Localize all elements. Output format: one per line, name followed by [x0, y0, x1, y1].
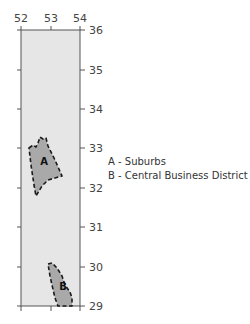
- y-tick-label: 29: [89, 300, 103, 313]
- y-tick-label: 31: [89, 221, 103, 234]
- y-tick-label: 34: [89, 103, 103, 116]
- legend: A - Suburbs B - Central Business Distric…: [108, 155, 248, 183]
- x-tick-label: 52: [14, 12, 28, 25]
- region-label-b: B: [59, 281, 67, 292]
- y-tick-label: 30: [89, 261, 103, 274]
- y-tick-label: 33: [89, 142, 103, 155]
- map-area: 5253543635343332313029AB: [14, 12, 103, 313]
- y-tick-label: 35: [89, 64, 103, 77]
- region-label-a: A: [40, 156, 48, 167]
- x-tick-label: 54: [73, 12, 87, 25]
- legend-item-cbd: B - Central Business District: [108, 169, 248, 183]
- y-tick-label: 32: [89, 182, 103, 195]
- legend-item-suburbs: A - Suburbs: [108, 155, 248, 169]
- x-tick-label: 53: [44, 12, 58, 25]
- y-tick-label: 36: [89, 24, 103, 37]
